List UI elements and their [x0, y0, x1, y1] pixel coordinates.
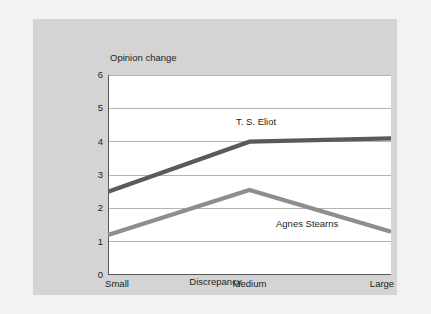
y-axis-tick-label: 3: [81, 170, 103, 180]
x-axis-title: Discrepancy: [0, 276, 431, 287]
series-lines: [108, 138, 391, 235]
plot-area: [108, 75, 391, 275]
series-line: [108, 190, 391, 235]
y-axis-tick-label: 6: [81, 70, 103, 80]
y-axis-title: Opinion change: [110, 52, 177, 63]
chart-canvas: [108, 75, 391, 275]
y-axis-tick-labels: 0123456: [79, 75, 103, 275]
y-axis-tick-label: 1: [81, 237, 103, 247]
series-line: [108, 138, 391, 191]
y-axis-tick-label: 5: [81, 103, 103, 113]
series-label-agnes-stearns: Agnes Stearns: [276, 218, 338, 229]
y-axis-tick-label: 2: [81, 203, 103, 213]
y-axis-tick-label: 4: [81, 137, 103, 147]
chart-page: Opinion change 0123456 SmallMediumLarge …: [0, 0, 431, 314]
series-label-t-s-eliot: T. S. Eliot: [236, 116, 276, 127]
chart-panel: Opinion change 0123456 SmallMediumLarge …: [33, 19, 397, 295]
gridlines: [108, 75, 391, 242]
